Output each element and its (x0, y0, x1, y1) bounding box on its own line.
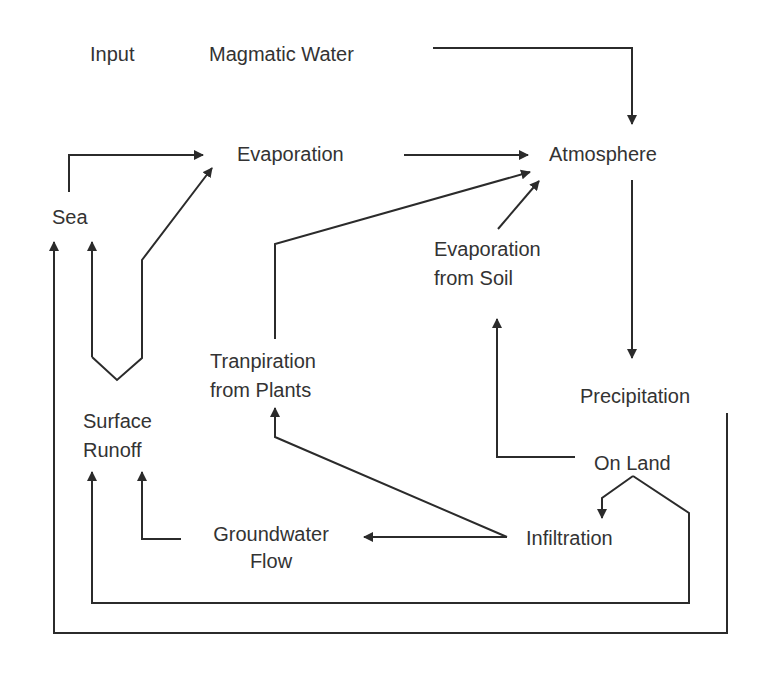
node-magmatic-water: Magmatic Water (209, 43, 354, 66)
node-evaporation-from-soil: Evaporation from Soil (434, 238, 541, 290)
node-evaporation-from-soil-line1: Evaporation (434, 238, 541, 261)
edge-precipitation-to-sea (54, 242, 727, 633)
edge-onland-to-evap-soil (497, 319, 575, 457)
edge-onland-to-infiltration (602, 476, 633, 518)
node-input: Input (90, 43, 134, 66)
node-tranpiration-line1: Tranpiration (210, 350, 316, 373)
edge-groundwater-to-runoff (142, 472, 181, 539)
node-tranpiration-line2: from Plants (210, 379, 316, 402)
node-groundwater-line2: Flow (198, 550, 344, 573)
edge-infiltration-to-tranpiration (275, 408, 507, 537)
node-infiltration: Infiltration (526, 527, 613, 550)
node-surface-runoff-line2: Runoff (83, 439, 152, 462)
edge-sea-to-evaporation (69, 155, 203, 192)
water-cycle-diagram (0, 0, 768, 678)
node-evaporation: Evaporation (237, 143, 344, 166)
node-on-land: On Land (594, 452, 671, 475)
edge-magmatic-to-atmosphere (433, 48, 632, 124)
edge-runoff-to-sea-and-evaporation (92, 168, 212, 380)
node-tranpiration-from-plants: Tranpiration from Plants (210, 350, 316, 402)
node-evaporation-from-soil-line2: from Soil (434, 267, 541, 290)
node-atmosphere: Atmosphere (549, 143, 657, 166)
node-groundwater-line1: Groundwater (198, 523, 344, 546)
node-sea: Sea (52, 206, 88, 229)
edge-evap-soil-to-atmosphere (498, 181, 539, 229)
node-groundwater-flow: Groundwater Flow (198, 523, 344, 573)
node-precipitation: Precipitation (580, 385, 690, 408)
node-surface-runoff-line1: Surface (83, 410, 152, 433)
node-surface-runoff: Surface Runoff (83, 410, 152, 462)
